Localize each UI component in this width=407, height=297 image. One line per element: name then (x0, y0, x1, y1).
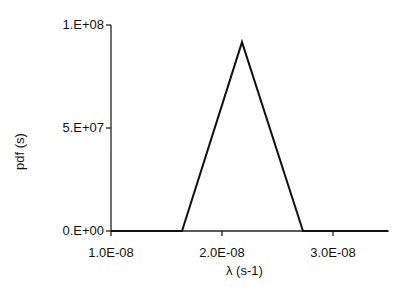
y-tick-label: 5.E+07 (14, 121, 104, 135)
y-axis-label: pdf (s) (12, 133, 27, 170)
x-tick-label: 1.0E-08 (71, 246, 151, 260)
pdf-series-line (111, 42, 389, 231)
x-tick-label: 2.0E-08 (182, 246, 262, 260)
x-axis-label: λ (s-1) (226, 264, 263, 278)
y-tick-label: 0.E+00 (14, 224, 104, 238)
x-tick-label: 3.0E-08 (293, 246, 373, 260)
y-tick-label: 1.E+08 (14, 18, 104, 32)
